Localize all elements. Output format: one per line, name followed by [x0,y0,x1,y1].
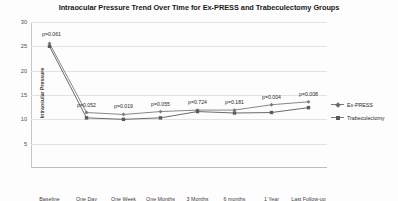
data-point-marker [159,116,162,119]
p-value-label: p=0.004 [262,94,281,100]
x-axis-tick-label: Last Follow-up [291,196,325,201]
plot-area: 51015202530 Intraocular Pressure p=0.061… [31,22,327,168]
data-point-marker [307,106,310,109]
data-point-marker [307,100,311,104]
data-point-marker [270,111,273,114]
legend-label-express: Ex-PRESS [347,102,373,108]
legend-item-trabeculectomy: Trabeculectomy [331,111,397,124]
p-value-label: p=0.019 [114,103,133,109]
x-axis-tick-label: 3 Months [187,196,209,201]
x-axis-tick-label: 6 months [224,196,246,201]
y-axis-tick-label: 15 [5,92,27,98]
data-point-marker [159,110,163,114]
data-point-marker [270,103,274,107]
p-value-label: p=0.061 [42,31,61,37]
p-value-label: p=0.008 [299,91,318,97]
chart-container: Intraocular Pressure Trend Over Time for… [0,0,398,201]
p-value-label: p=0.052 [77,102,96,108]
p-value-label: p=0.724 [188,99,207,105]
x-axis-tick-label: Baseline [39,196,59,201]
x-axis-tick-label: One Day [76,196,97,201]
y-axis-tick-label: 30 [5,19,27,25]
legend-label-trabeculectomy: Trabeculectomy [347,115,384,121]
x-axis-tick-label: One Months [146,196,175,201]
chart-legend: Ex-PRESS Trabeculectomy [331,98,397,124]
data-point-marker [122,113,126,117]
y-axis-tick-label: 20 [5,68,27,74]
legend-marker-diamond-icon [331,101,344,108]
data-point-marker [233,111,236,114]
data-point-marker [196,110,199,113]
series-lines [31,22,327,168]
data-point-marker [122,118,125,121]
p-value-label: p=0.055 [151,101,170,107]
y-axis-tick-label: 10 [5,116,27,122]
x-axis-tick-label: 1 Year [264,196,279,201]
p-value-label: p=0.181 [225,99,244,105]
data-point-marker [85,111,89,115]
chart-title: Intraocular Pressure Trend Over Time for… [0,3,398,12]
x-axis-tick-label: One Week [111,196,136,201]
y-axis-tick-label: 25 [5,43,27,49]
legend-item-express: Ex-PRESS [331,98,397,111]
data-point-marker [48,45,51,48]
legend-marker-square-icon [331,114,344,121]
y-axis-tick-label: 5 [5,141,27,147]
series-line-trabeculectomy [50,46,309,119]
data-point-marker [85,116,88,119]
